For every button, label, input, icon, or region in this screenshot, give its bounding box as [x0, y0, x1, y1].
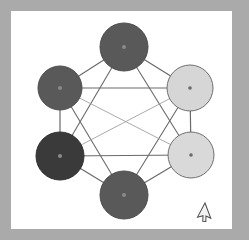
application-window: [0, 0, 249, 240]
node-center-dot: [189, 153, 193, 157]
node-center-dot: [58, 86, 62, 90]
node-center-dot: [122, 193, 126, 197]
node-center-dot: [188, 86, 192, 90]
graph-node[interactable]: [38, 66, 82, 110]
node-center-dot: [58, 154, 62, 158]
graph-node[interactable]: [168, 132, 214, 178]
node-link-diagram[interactable]: [0, 0, 249, 240]
graph-node[interactable]: [100, 171, 148, 219]
graph-node[interactable]: [100, 23, 148, 71]
graph-node[interactable]: [167, 65, 213, 111]
graph-node[interactable]: [36, 132, 84, 180]
node-center-dot: [122, 45, 126, 49]
